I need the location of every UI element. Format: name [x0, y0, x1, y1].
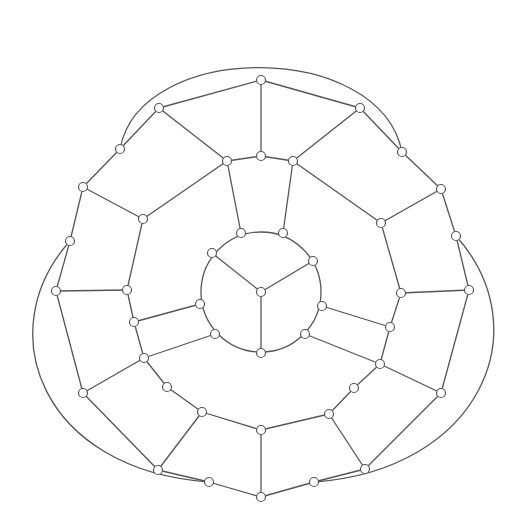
edge-i8-m11 [305, 334, 380, 364]
edge-m1-m2 [227, 156, 261, 161]
graph-node-o14 [154, 466, 163, 475]
edge-o7-o9 [441, 189, 456, 236]
graph-nodes [52, 76, 474, 502]
edge-o12-o14 [83, 393, 158, 470]
graph-node-o5 [398, 148, 407, 157]
outer-arc-o8-o16 [33, 241, 209, 482]
edge-m8-m10 [134, 322, 144, 358]
edge-o13-o15 [365, 393, 441, 469]
edge-o7-m5 [381, 189, 441, 223]
graph-diagram [0, 0, 522, 523]
graph-node-o1 [257, 76, 266, 85]
edge-i7-m10 [144, 334, 215, 358]
edge-m3-m5 [293, 161, 381, 223]
graph-node-m6 [123, 286, 132, 295]
graph-node-o10 [52, 287, 61, 296]
graph-node-o15 [361, 465, 370, 474]
graph-node-m1 [223, 157, 232, 166]
graph-node-i1 [237, 229, 246, 238]
edge-o6-m4 [83, 187, 143, 219]
edge-o5-o7 [402, 152, 441, 189]
edge-o10-m6 [56, 290, 127, 291]
graph-node-m3 [289, 157, 298, 166]
graph-node-o9 [452, 232, 461, 241]
edge-m7-m9 [390, 293, 401, 327]
edge-m16-m15 [261, 414, 329, 430]
edge-m1-m4 [143, 161, 227, 219]
outer-arcs [33, 68, 494, 482]
edge-o6-o8 [70, 187, 83, 241]
graph-node-o2 [155, 104, 164, 113]
outer-arc-o9-o17 [314, 236, 494, 482]
edge-o12-m10 [83, 358, 144, 393]
graph-node-o18 [257, 493, 266, 502]
graph-node-o6 [79, 183, 88, 192]
edge-m12-m14 [167, 387, 202, 412]
graph-node-m13 [350, 384, 359, 393]
graph-node-m14 [198, 408, 207, 417]
edge-m14-m16 [202, 412, 261, 430]
graph-node-m9 [386, 323, 395, 332]
edge-o1-o3 [261, 80, 360, 108]
edge-i1-m1 [227, 161, 241, 233]
edge-o11-o13 [441, 290, 469, 393]
edge-m15-m13 [329, 388, 354, 414]
edge-m4-m6 [127, 219, 143, 290]
edge-o3-o5 [360, 108, 402, 152]
graph-node-m5 [377, 219, 386, 228]
edge-o4-o6 [83, 149, 120, 187]
graph-node-i6 [318, 302, 327, 311]
edge-m11-m13 [354, 364, 380, 388]
graph-node-c [257, 288, 266, 297]
graph-node-m15 [325, 410, 334, 419]
graph-node-m2 [257, 152, 266, 161]
graph-node-m4 [139, 215, 148, 224]
edge-m9-m11 [380, 327, 390, 364]
graph-node-m10 [140, 354, 149, 363]
edge-i2-m3 [283, 161, 293, 233]
edge-o14-m14 [158, 412, 202, 470]
graph-node-m8 [130, 318, 139, 327]
graph-node-i4 [309, 257, 318, 266]
graph-node-m7 [397, 289, 406, 298]
graph-node-o11 [465, 286, 474, 295]
graph-node-i5 [196, 300, 205, 309]
graph-node-o7 [437, 185, 446, 194]
edge-i5-m8 [134, 304, 200, 322]
graph-node-o13 [437, 389, 446, 398]
edge-o1-o2 [159, 80, 261, 108]
edge-i6-m9 [322, 306, 390, 327]
graph-node-o16 [205, 478, 214, 487]
graph-node-o3 [356, 104, 365, 113]
edge-m10-m12 [144, 358, 167, 387]
edge-c-i3 [212, 253, 261, 292]
edge-o11-m7 [401, 290, 469, 293]
graph-node-i7 [211, 330, 220, 339]
edge-o3-m3 [293, 108, 360, 161]
graph-node-m11 [376, 360, 385, 369]
edge-o17-o18 [261, 482, 314, 497]
graph-node-i2 [279, 229, 288, 238]
graph-node-i8 [301, 330, 310, 339]
graph-node-m12 [163, 383, 172, 392]
edge-o15-m15 [329, 414, 365, 469]
graph-node-o17 [310, 478, 319, 487]
graph-node-o12 [79, 389, 88, 398]
edge-o10-o12 [56, 291, 83, 393]
graph-node-o8 [66, 237, 75, 246]
edge-o2-o4 [120, 108, 159, 149]
graph-node-m16 [257, 426, 266, 435]
edge-o2-m1 [159, 108, 227, 161]
edge-o13-m11 [380, 364, 441, 393]
graph-node-i9 [257, 349, 266, 358]
edge-m5-m7 [381, 223, 401, 293]
graph-node-o4 [116, 145, 125, 154]
edge-c-i4 [261, 261, 313, 292]
edge-o16-o18 [209, 482, 261, 497]
graph-node-i3 [208, 249, 217, 258]
